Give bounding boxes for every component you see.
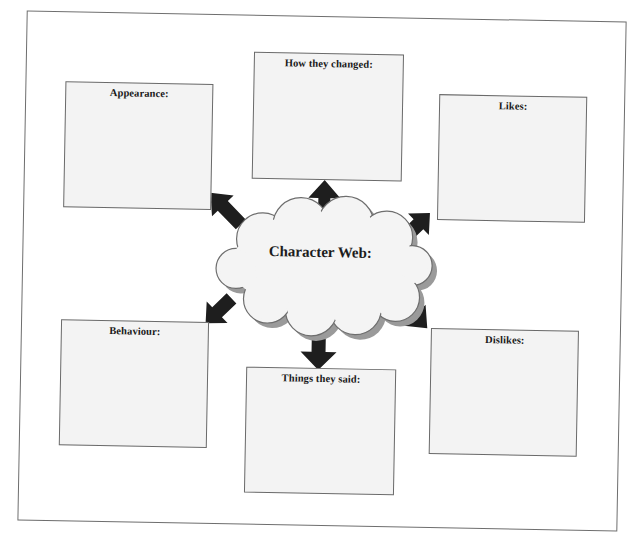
character-web-title: Character Web:: [245, 243, 395, 263]
cloud-shape: [0, 0, 641, 545]
worksheet: Appearance: How they changed: Likes: Beh…: [0, 0, 641, 545]
